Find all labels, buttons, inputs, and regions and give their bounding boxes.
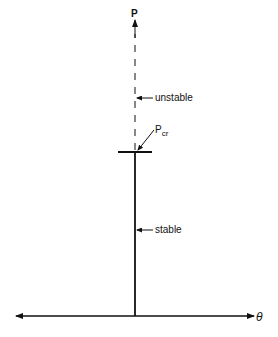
stable-label: stable xyxy=(155,224,182,235)
unstable-label: unstable xyxy=(155,92,193,103)
pcr-label: Pcr xyxy=(155,124,169,138)
theta-axis-label: θ xyxy=(256,310,263,324)
pcr-label-subscript: cr xyxy=(162,129,169,138)
p-axis-label: P xyxy=(131,8,138,19)
pcr-pointer-arrow xyxy=(138,130,154,150)
bifurcation-diagram: θ P unstable Pcr stable xyxy=(0,0,278,337)
